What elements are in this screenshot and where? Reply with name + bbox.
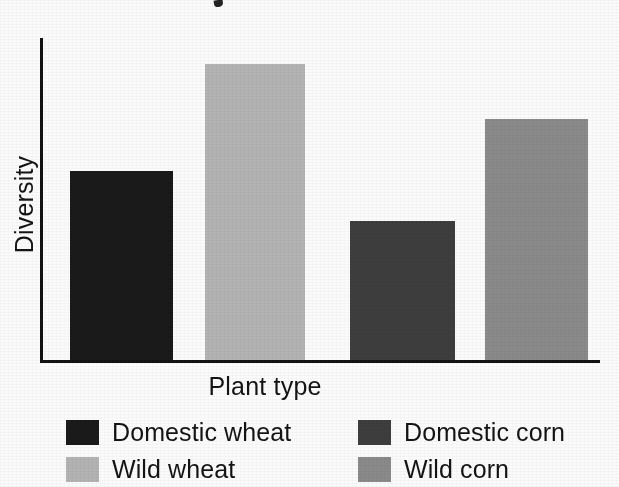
legend-item-wild-corn: Wild corn	[358, 457, 619, 482]
legend-swatch-icon	[358, 457, 391, 482]
legend-item-label: Wild wheat	[112, 457, 235, 482]
bar-chart-figure: Diversity Plant type Domestic wheat Dome…	[0, 0, 619, 487]
x-axis-line	[40, 360, 600, 363]
legend-swatch-icon	[66, 457, 99, 482]
bar-domestic-wheat	[70, 171, 173, 361]
y-axis-label: Diversity	[10, 105, 39, 305]
x-axis-label: Plant type	[40, 372, 490, 401]
legend-item-domestic-wheat: Domestic wheat	[66, 420, 358, 445]
legend-swatch-icon	[66, 420, 99, 445]
bar-wild-wheat	[205, 64, 305, 361]
y-axis-line	[40, 38, 43, 363]
chart-legend: Domestic wheat Domestic corn Wild wheat …	[66, 414, 619, 487]
legend-item-domestic-corn: Domestic corn	[358, 420, 619, 445]
legend-swatch-icon	[358, 420, 391, 445]
legend-item-label: Domestic corn	[404, 420, 565, 445]
plot-area: Diversity Plant type	[0, 0, 619, 400]
bar-wild-corn	[485, 119, 588, 361]
legend-item-label: Domestic wheat	[112, 420, 291, 445]
bars-layer	[0, 0, 619, 361]
bar-domestic-corn	[350, 221, 455, 361]
legend-item-label: Wild corn	[404, 457, 509, 482]
legend-item-wild-wheat: Wild wheat	[66, 457, 358, 482]
